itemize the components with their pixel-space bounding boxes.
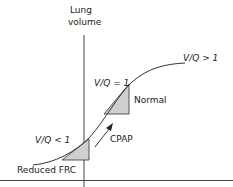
lung-volume-diagram xyxy=(0,0,233,187)
label-vq-low: V/Q < 1 xyxy=(35,135,70,146)
label-reduced-frc: Reduced FRC xyxy=(17,165,76,176)
arrow-head-icon xyxy=(106,123,113,131)
cpap-arrow xyxy=(95,127,111,147)
label-cpap: CPAP xyxy=(110,134,133,145)
label-normal: Normal xyxy=(134,95,167,106)
label-vq-equal: V/Q = 1 xyxy=(94,78,129,89)
y-axis-label-line1: Lung xyxy=(70,5,92,16)
y-axis-label-line2: volume xyxy=(68,17,101,28)
label-vq-high: V/Q > 1 xyxy=(183,53,218,64)
